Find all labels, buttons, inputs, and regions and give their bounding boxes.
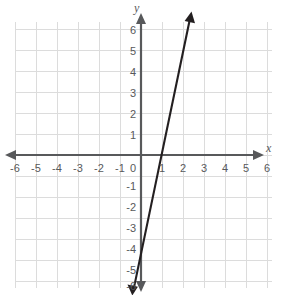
x-tick-label: -1 bbox=[115, 162, 125, 174]
x-tick-label: 6 bbox=[264, 162, 270, 174]
y-axis-tick-labels: 6 5 4 3 2 1 -1 -2 -3 -4 -5 -6 bbox=[126, 24, 136, 292]
y-tick-label: -6 bbox=[126, 280, 136, 292]
x-tick-label: 5 bbox=[243, 162, 249, 174]
x-tick-label: -5 bbox=[31, 162, 41, 174]
coordinate-plane-graph: -6 -5 -4 -3 -2 -1 1 2 3 4 5 6 0 6 5 4 3 … bbox=[0, 0, 281, 295]
x-tick-label: -4 bbox=[52, 162, 62, 174]
plotted-line-series bbox=[128, 12, 196, 295]
line-arrow-upper bbox=[185, 12, 195, 24]
x-tick-label: -6 bbox=[10, 162, 20, 174]
x-tick-label: -2 bbox=[94, 162, 104, 174]
x-tick-label: 4 bbox=[222, 162, 228, 174]
y-axis-arrow-down bbox=[136, 281, 146, 292]
y-tick-label: -3 bbox=[126, 222, 136, 234]
x-tick-label: 1 bbox=[159, 162, 165, 174]
x-tick-label: 2 bbox=[180, 162, 186, 174]
y-tick-label: -1 bbox=[126, 180, 136, 192]
y-tick-label: 4 bbox=[130, 66, 136, 78]
y-tick-label: 5 bbox=[130, 45, 136, 57]
y-tick-label: 3 bbox=[130, 87, 136, 99]
y-tick-label: -5 bbox=[126, 264, 136, 276]
y-tick-label: 6 bbox=[130, 24, 136, 36]
origin-label: 0 bbox=[130, 162, 136, 174]
x-tick-label: -3 bbox=[73, 162, 83, 174]
graph-canvas: -6 -5 -4 -3 -2 -1 1 2 3 4 5 6 0 6 5 4 3 … bbox=[0, 0, 281, 295]
x-tick-label: 3 bbox=[201, 162, 207, 174]
y-axis-name-label: y bbox=[133, 1, 140, 15]
y-tick-label: 2 bbox=[130, 108, 136, 120]
x-axis-arrow-right bbox=[253, 150, 264, 160]
y-tick-label: -2 bbox=[126, 201, 136, 213]
x-axis-name-label: x bbox=[265, 141, 272, 155]
x-axis-arrow-left bbox=[5, 150, 16, 160]
y-tick-label: -4 bbox=[126, 243, 136, 255]
y-tick-label: 1 bbox=[130, 129, 136, 141]
